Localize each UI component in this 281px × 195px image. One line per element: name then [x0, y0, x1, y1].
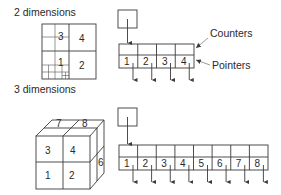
- pointer-cell-label: 4: [180, 158, 186, 169]
- root-node-3d: [118, 108, 137, 144]
- section-title-2d: 2 dimensions: [14, 6, 76, 18]
- section-title-3d: 3 dimensions: [14, 83, 76, 95]
- grid-label: 2: [79, 60, 85, 71]
- grid-label: 4: [79, 33, 85, 44]
- cube-label: 3: [45, 145, 51, 156]
- counter-pointer-table-3d: [119, 145, 268, 182]
- cube-label: 4: [70, 145, 76, 156]
- root-node-2d: [118, 10, 137, 43]
- pointer-cell-label: 3: [161, 158, 167, 169]
- cube-label: 1: [45, 170, 51, 181]
- pointer-cell-label: 2: [143, 56, 149, 67]
- pointer-cell-label: 2: [143, 158, 149, 169]
- pointer-cell-label: 8: [254, 158, 260, 169]
- grid-label: 1: [58, 57, 64, 68]
- cube-label: 8: [82, 118, 88, 129]
- pointer-cell-label: 7: [236, 158, 242, 169]
- cube-label: 7: [56, 118, 62, 129]
- quadtree-grid-2d: [42, 24, 96, 79]
- pointers-label: Pointers: [212, 59, 251, 71]
- pointer-cell-label: 1: [124, 56, 130, 67]
- pointer-cell-label: 6: [217, 158, 223, 169]
- pointer-cell-label: 1: [124, 158, 130, 169]
- pointer-cell-label: 5: [199, 158, 205, 169]
- diagram-canvas: 2 dimensions 3 4 1 2 1 2 3 4: [0, 0, 281, 195]
- pointer-cell-label: 3: [162, 56, 168, 67]
- cube-label: 2: [69, 170, 75, 181]
- grid-label: 3: [58, 31, 64, 42]
- pointer-cell-label: 4: [181, 56, 187, 67]
- counters-label: Counters: [210, 27, 253, 39]
- cube-label: 6: [98, 157, 104, 168]
- annotation-arrows: [196, 38, 210, 65]
